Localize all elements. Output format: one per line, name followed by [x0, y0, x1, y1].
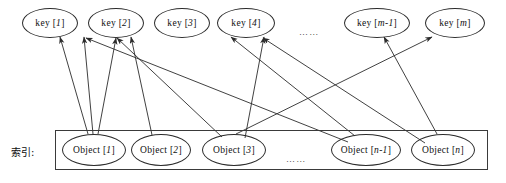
edge-object-3 — [117, 38, 222, 137]
object-node-label: Object [n-1] — [341, 145, 391, 155]
key-node-label: key [2] — [101, 18, 130, 28]
object-row-ellipsis: …… — [286, 154, 306, 164]
key-node-key-m[interactable]: key [m] — [425, 8, 485, 38]
object-to-key-edges — [60, 37, 437, 143]
edge-object-1 — [98, 38, 116, 134]
diagram-canvas: 索引: …… …… key [1]key [2]key [3]key [4]ke… — [0, 0, 506, 183]
key-node-label: key [m] — [439, 18, 470, 28]
edge-object-n — [384, 37, 437, 134]
key-node-key-1[interactable]: key [1] — [22, 8, 78, 38]
edge-object-n-1 — [86, 38, 348, 142]
object-node-object-1[interactable]: Object [1] — [62, 134, 126, 166]
index-label: 索引: — [11, 144, 34, 159]
object-node-label: Object [n] — [422, 145, 464, 155]
object-node-label: Object [1] — [73, 145, 115, 155]
object-node-object-n-1[interactable]: Object [n-1] — [331, 134, 401, 166]
key-node-key-3[interactable]: key [3] — [154, 8, 210, 38]
key-node-label: key [m-1] — [357, 18, 397, 28]
key-node-key-m-1[interactable]: key [m-1] — [344, 8, 410, 38]
edge-object-1 — [84, 37, 93, 134]
object-node-object-2[interactable]: Object [2] — [131, 134, 191, 166]
key-node-label: key [4] — [231, 18, 260, 28]
edge-object-2 — [131, 37, 152, 135]
object-node-label: Object [2] — [140, 145, 182, 155]
edge-object-n-1 — [231, 37, 355, 136]
key-row-ellipsis: …… — [299, 27, 319, 37]
object-node-object-n[interactable]: Object [n] — [411, 134, 475, 166]
key-node-key-2[interactable]: key [2] — [88, 8, 144, 38]
key-node-key-4[interactable]: key [4] — [217, 8, 275, 38]
key-node-label: key [1] — [35, 18, 64, 28]
object-node-object-3[interactable]: Object [3] — [202, 134, 266, 166]
edge-object-1 — [60, 37, 88, 134]
key-node-label: key [3] — [167, 18, 196, 28]
edge-object-3 — [245, 37, 264, 138]
object-node-label: Object [3] — [213, 145, 255, 155]
